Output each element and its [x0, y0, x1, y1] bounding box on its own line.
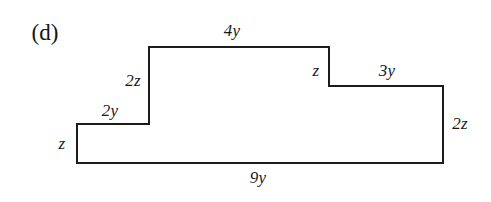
- figure-page: (d) z2y2z4yz3y2z9y: [0, 0, 491, 202]
- edge-label-bottom: 9y: [250, 169, 267, 186]
- edge-label-middle-riser: 2z: [125, 72, 141, 89]
- edge-label-right-step-top: 3y: [379, 62, 396, 79]
- edge-label-left-side: z: [59, 135, 66, 152]
- edge-label-lower-left-top: 2y: [102, 102, 119, 119]
- edge-label-top: 4y: [224, 22, 241, 39]
- edge-label-right-side: 2z: [452, 115, 468, 132]
- step-polygon-figure: [0, 0, 491, 202]
- edge-label-right-riser-upper: z: [313, 62, 320, 79]
